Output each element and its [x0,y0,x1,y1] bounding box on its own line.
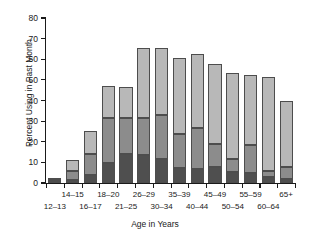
x-axis-title: Age in Years [0,219,310,229]
x-tick [206,184,207,188]
bar-segment-segment-top [208,64,221,144]
y-tick-label: 20 [14,137,38,147]
x-tick [242,184,243,188]
y-tick [41,100,45,101]
bar-segment-segment-top [84,131,97,153]
x-tick-label: 45–49 [198,190,232,199]
bar-segment-segment-bottom [226,172,239,183]
x-tick [188,184,189,188]
x-tick [82,184,83,188]
bar-segment-segment-top [66,160,79,171]
bar [208,18,221,183]
bar [84,18,97,183]
bar-segment-segment-top [280,101,293,167]
bar-segment-segment-bottom [137,155,150,183]
bar [244,18,257,183]
bar [66,18,79,183]
bar [137,18,150,183]
bar [173,18,186,183]
bar-segment-segment-top [155,48,168,115]
x-tick-label: 26–29 [127,190,161,199]
x-tick-label: 40–44 [180,202,214,211]
y-tick-label: 40 [14,96,38,106]
y-tick [41,141,45,142]
bar [48,18,61,183]
bar-segment-segment-top [173,58,186,135]
bar-segment-segment-middle [119,118,132,154]
y-tick [41,121,45,122]
bar-segment-segment-bottom [173,168,186,183]
x-tick [224,184,225,188]
y-tick-label: 60 [14,54,38,64]
bar-segment-segment-bottom [66,180,79,183]
bar-segment-segment-middle [191,128,204,169]
x-tick [64,184,65,188]
x-tick-label: 60–64 [251,202,285,211]
y-tick-label: 50 [14,75,38,85]
bar-segment-segment-bottom [102,163,115,183]
x-tick [277,184,278,188]
bar [155,18,168,183]
bar-segment-segment-top [119,87,132,118]
bar-segment-segment-middle [137,118,150,155]
x-tick [46,184,47,188]
x-tick-label: 18–20 [91,190,125,199]
bar-segment-segment-bottom [280,179,293,183]
x-tick-label: 21–25 [109,202,143,211]
plot-area [46,18,295,183]
bar-segment-segment-bottom [262,177,275,183]
y-tick [41,162,45,163]
bar-segment-segment-top [244,75,257,145]
x-tick-label: 50–54 [216,202,250,211]
y-tick-label: 30 [14,116,38,126]
bar-segment-segment-middle [244,145,257,173]
bar [102,18,115,183]
bar [280,18,293,183]
bar-segment-segment-bottom [191,169,204,183]
bar-segment-segment-middle [84,154,97,176]
y-tick [41,38,45,39]
x-tick-label: 55–59 [234,190,268,199]
bar-segment-segment-bottom [244,173,257,183]
x-tick [99,184,100,188]
stacked-bar-chart: Percent Using in Past Month 010203040506… [0,0,310,237]
x-tick [153,184,154,188]
y-tick [41,182,45,183]
bar-segment-segment-top [137,48,150,118]
bar [119,18,132,183]
bar-segment-segment-middle [102,118,115,162]
bar-segment-segment-bottom [208,167,221,183]
bar-segment-segment-top [102,86,115,118]
bar-segment-segment-middle [208,144,221,167]
x-tick-label: 35–39 [162,190,196,199]
bar-segment-segment-middle [173,134,186,167]
bar-segment-segment-middle [66,171,79,180]
y-tick [41,59,45,60]
y-tick-label: 80 [14,13,38,23]
y-tick-label: 0 [14,178,38,188]
x-tick-label: 16–17 [73,202,107,211]
x-tick-label: 12–13 [38,202,72,211]
bar [262,18,275,183]
y-tick [41,17,45,18]
bar-segment-segment-top [48,178,61,180]
bar-segment-segment-top [191,54,204,128]
bar [191,18,204,183]
y-tick [41,79,45,80]
bar-segment-segment-top [226,73,239,158]
x-tick [117,184,118,188]
bar-segment-segment-middle [280,167,293,180]
x-tick-label: 30–34 [145,202,179,211]
x-tick-label: 14–15 [56,190,90,199]
x-tick [295,184,296,188]
bar [226,18,239,183]
x-tick [135,184,136,188]
y-tick-label: 70 [14,34,38,44]
bar-segment-segment-bottom [119,154,132,183]
bar-segment-segment-middle [226,159,239,172]
bar-segment-segment-middle [262,171,275,176]
bar-segment-segment-middle [155,115,168,159]
bar-segment-segment-bottom [155,159,168,183]
bar-segment-segment-bottom [84,175,97,183]
x-tick-label: 65+ [269,190,303,199]
